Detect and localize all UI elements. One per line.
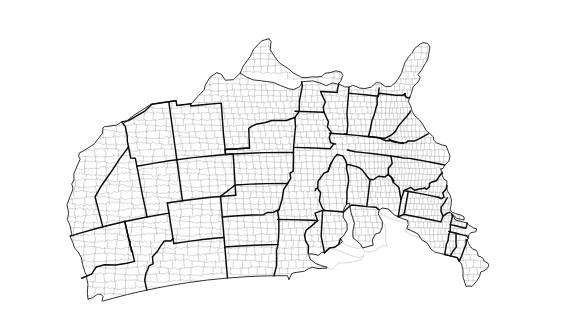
map-background [0,0,567,333]
state-boundary-line [295,111,324,112]
map-figure [0,0,567,333]
state-boundary-line [378,88,379,96]
us-county-map-svg[interactable] [0,0,567,333]
